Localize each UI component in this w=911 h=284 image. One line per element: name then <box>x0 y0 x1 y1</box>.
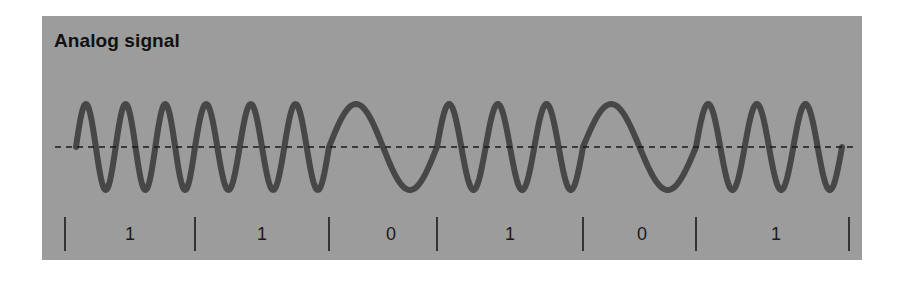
bit-label: 1 <box>771 224 781 244</box>
bit-label: 1 <box>125 224 135 244</box>
bit-label: 0 <box>386 224 396 244</box>
analog-signal-diagram: 110101 <box>0 0 911 284</box>
bit-label: 1 <box>257 224 267 244</box>
bit-label: 1 <box>505 224 515 244</box>
bit-label: 0 <box>637 224 647 244</box>
bit-labels: 110101 <box>125 224 781 244</box>
bit-dividers <box>65 217 849 251</box>
